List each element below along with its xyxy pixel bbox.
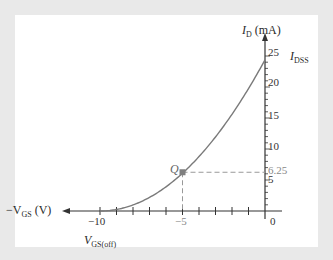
idss-label: IDSS [290, 50, 309, 65]
y-axis-label: ID (mA) [242, 24, 281, 39]
x-tick-neg10: −10 [88, 216, 105, 227]
x-axis-label: −VGS (V) [6, 204, 51, 219]
x-tick-neg5: −5 [175, 216, 187, 227]
q-point-marker [180, 169, 186, 175]
y-tick-25: 25 [268, 47, 279, 58]
chart-plot [0, 0, 333, 260]
y-tick-5: 5 [268, 174, 274, 185]
q-point-label: Q [170, 163, 179, 175]
x-tick-0: 0 [270, 216, 276, 227]
y-tick-15: 15 [268, 110, 279, 121]
vgsoff-label: VGS(off) [84, 234, 116, 249]
y-tick-10: 10 [268, 141, 279, 152]
y-tick-20: 20 [268, 77, 279, 88]
x-axis-arrow-icon [62, 208, 70, 214]
